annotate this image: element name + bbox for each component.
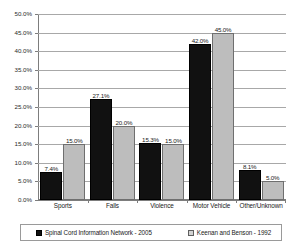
bar-series-1[interactable]: 45.0%	[212, 33, 234, 200]
y-axis-tick-label: 0.0%	[0, 196, 32, 203]
plot-wrapper: 50.0%45.0%40.0%35.0%30.0%25.0%20.0%15.0%…	[38, 14, 286, 200]
y-axis-tick-label: 30.0%	[0, 84, 32, 91]
bar-value-label: 15.0%	[66, 137, 83, 144]
bar-value-label: 42.0%	[192, 37, 209, 44]
x-axis-label-3: Motor Vehicle	[187, 202, 237, 216]
bar-value-label: 7.4%	[45, 165, 59, 172]
bar-value-label: 5.0%	[266, 174, 280, 181]
y-axis-tick-label: 25.0%	[0, 103, 32, 110]
bar-value-label: 27.1%	[92, 92, 109, 99]
y-axis-tick-label: 40.0%	[0, 47, 32, 54]
bar-series-0[interactable]: 15.3%	[139, 143, 161, 200]
y-axis-tick-mark	[35, 200, 38, 201]
x-axis-label-0: Sports	[38, 202, 88, 216]
bar-group: 42.0%45.0%	[187, 14, 237, 200]
bar-chart: 50.0%45.0%40.0%35.0%30.0%25.0%20.0%15.0%…	[0, 0, 302, 249]
legend-swatch-icon-series-1	[188, 230, 194, 236]
y-axis-tick-label: 10.0%	[0, 159, 32, 166]
chart-legend: Spinal Cord Information Network - 2005 K…	[20, 224, 282, 241]
legend-item-series-1: Keenan and Benson - 1992	[188, 229, 271, 236]
legend-label-series-0: Spinal Cord Information Network - 2005	[45, 229, 152, 236]
bar-value-label: 15.0%	[165, 137, 182, 144]
bar-group: 8.1%5.0%	[236, 14, 286, 200]
bar-group: 7.4%15.0%	[38, 14, 88, 200]
y-axis-tick-label: 50.0%	[0, 10, 32, 17]
y-axis-tick-label: 15.0%	[0, 140, 32, 147]
bar-value-label: 45.0%	[215, 26, 232, 33]
gridline	[38, 200, 286, 201]
bar-series-1[interactable]: 15.0%	[162, 144, 184, 200]
y-axis-tick-label: 20.0%	[0, 122, 32, 129]
legend-item-series-0: Spinal Cord Information Network - 2005	[36, 229, 152, 236]
bar-group: 15.3%15.0%	[137, 14, 187, 200]
bar-value-label: 15.3%	[142, 136, 159, 143]
bar-value-label: 8.1%	[243, 163, 257, 170]
legend-swatch-icon-series-0	[36, 230, 42, 236]
bar-series-0[interactable]: 27.1%	[90, 99, 112, 200]
y-axis-tick-label: 45.0%	[0, 29, 32, 36]
bar-series-0[interactable]: 7.4%	[40, 172, 62, 200]
bar-series-0[interactable]: 42.0%	[189, 44, 211, 200]
x-axis-labels: SportsFallsViolenceMotor VehicleOther/Un…	[38, 202, 286, 216]
bar-series-1[interactable]: 20.0%	[113, 126, 135, 200]
bar-series-1[interactable]: 5.0%	[262, 181, 284, 200]
bar-value-label: 20.0%	[115, 119, 132, 126]
y-axis-tick-label: 35.0%	[0, 66, 32, 73]
bar-series-1[interactable]: 15.0%	[63, 144, 85, 200]
x-axis-label-1: Falls	[88, 202, 138, 216]
bar-groups: 7.4%15.0%27.1%20.0%15.3%15.0%42.0%45.0%8…	[38, 14, 286, 200]
bar-group: 27.1%20.0%	[88, 14, 138, 200]
y-axis-tick-label: 5.0%	[0, 177, 32, 184]
legend-label-series-1: Keenan and Benson - 1992	[197, 229, 271, 236]
x-axis-label-2: Violence	[137, 202, 187, 216]
bar-series-0[interactable]: 8.1%	[239, 170, 261, 200]
x-axis-label-4: Other/Unknown	[236, 202, 286, 216]
